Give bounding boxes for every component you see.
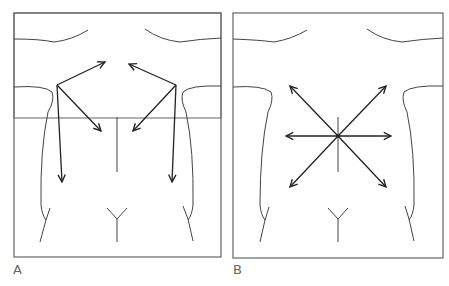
- arrow-right-up: [129, 64, 176, 85]
- arrow-down-right: [338, 136, 386, 187]
- panel-b: [233, 13, 443, 258]
- figure-canvas: [0, 0, 449, 286]
- arrow-right-down: [172, 85, 176, 182]
- panel-a-border: [14, 13, 221, 118]
- panel-a: [14, 13, 221, 257]
- groin-outline: [328, 208, 348, 242]
- arrow-up-left: [290, 86, 338, 136]
- arrow-up-right: [338, 86, 386, 136]
- left-hip-outline: [40, 208, 50, 242]
- right-flank-outline: [403, 86, 443, 220]
- arrow-left-down: [57, 85, 62, 182]
- arrow-left-up: [57, 62, 105, 85]
- right-shoulder-outline: [145, 29, 221, 42]
- right-flank-outline: [182, 86, 221, 220]
- left-flank-outline: [233, 87, 272, 220]
- arrow-down-left: [290, 136, 338, 187]
- left-flank-outline: [14, 87, 53, 220]
- panel-b-label: B: [233, 262, 242, 277]
- left-shoulder-outline: [14, 30, 88, 42]
- arrow-left-down-center: [57, 85, 101, 131]
- panel-a-label: A: [13, 262, 22, 277]
- groin-outline: [107, 208, 127, 242]
- arrow-right-down-center: [133, 85, 176, 131]
- right-shoulder-outline: [367, 29, 443, 42]
- left-shoulder-outline: [233, 30, 307, 42]
